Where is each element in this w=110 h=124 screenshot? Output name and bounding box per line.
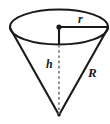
height-label: h (46, 58, 53, 70)
slant-height-label: R (88, 66, 97, 79)
apex-point-marker (57, 113, 60, 116)
cone-diagram-figure: r h R (0, 0, 110, 124)
base-center-point-marker (56, 24, 61, 29)
radius-label: r (78, 13, 83, 25)
cone-right-slant-line (59, 28, 108, 115)
cone-left-slant-line (10, 28, 59, 115)
cone-drawing (0, 0, 110, 124)
